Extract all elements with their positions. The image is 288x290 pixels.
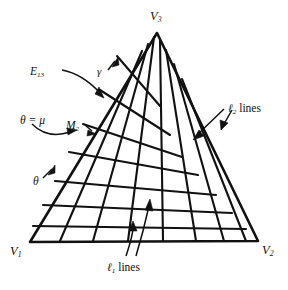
point-m2-sub: 2 — [76, 125, 80, 133]
annotation-label-l2-lines: ℓ2 lines — [228, 103, 261, 116]
point-m2-base: M — [66, 119, 76, 131]
l2-lines-text: lines — [239, 102, 261, 114]
annotation-label-gamma: γ — [97, 66, 101, 77]
annotation-label-e13: E13 — [30, 66, 44, 79]
vertex-label-v2: V2 — [262, 244, 274, 257]
annotation-label-theta: θ — [33, 176, 39, 188]
vertex-label-v3: V3 — [150, 10, 162, 23]
annotation-label-theta-equals-mu: θ = μ — [20, 115, 45, 127]
arrow-gamma — [108, 57, 119, 70]
vertex-v3-sub: 3 — [158, 15, 162, 24]
vertex-v1-sub: 1 — [18, 250, 22, 259]
point-label-m2: M2 — [66, 120, 79, 133]
arrow-l2-left — [193, 109, 224, 140]
vertex-v1-base: V — [10, 244, 18, 258]
vertex-v2-base: V — [262, 243, 270, 257]
arrow-theta — [43, 165, 55, 178]
e13-sub: 13 — [37, 71, 44, 79]
geometry-figure — [0, 0, 288, 290]
vertex-v2-sub: 2 — [270, 249, 274, 258]
annotation-label-l1-lines: ℓ1 lines — [107, 262, 140, 275]
e13-base: E — [30, 65, 37, 77]
vertex-v3-base: V — [150, 9, 158, 23]
vertex-label-v1: V1 — [10, 245, 22, 258]
l1-lines-text: lines — [118, 261, 140, 273]
triangle-outline — [30, 33, 258, 242]
